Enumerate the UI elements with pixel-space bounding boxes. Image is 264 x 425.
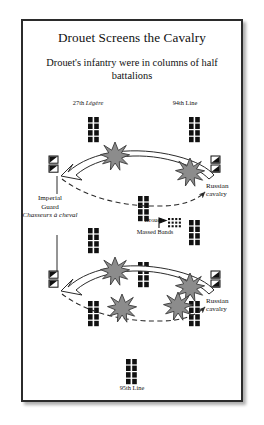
upper-bursts	[101, 142, 205, 186]
middle-infantry-columns	[88, 220, 200, 253]
battle-diagram: Drouet Screens the Cavalry Drouet's infa…	[0, 0, 264, 425]
lower-friendly-cavalry	[49, 271, 58, 287]
drouet-marker	[159, 218, 166, 228]
upper-enemy-cavalry	[211, 156, 220, 172]
diagram-graphics	[0, 0, 264, 425]
drouet-flag-icon	[159, 218, 166, 228]
massed-bands-marker	[168, 218, 181, 227]
upper-friendly-cavalry	[49, 156, 58, 172]
lower-enemy-cavalry	[211, 271, 220, 287]
upper-counter-arrow	[62, 179, 205, 206]
